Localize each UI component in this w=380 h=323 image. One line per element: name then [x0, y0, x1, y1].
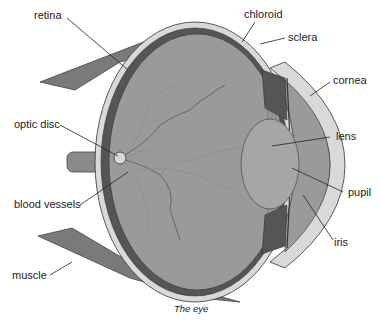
label-optic-disc: optic disc	[14, 119, 60, 130]
label-chloroid: chloroid	[244, 9, 283, 20]
label-blood-vessels: blood vessels	[14, 199, 81, 210]
optic-disc	[114, 152, 126, 164]
label-lens: lens	[336, 131, 356, 142]
label-pupil: pupil	[348, 187, 371, 198]
diagram-caption: The eye	[174, 303, 208, 314]
label-cornea: cornea	[333, 75, 367, 86]
label-muscle: muscle	[12, 270, 47, 281]
lens	[241, 119, 299, 209]
label-sclera: sclera	[288, 32, 317, 43]
eye-diagram	[0, 0, 380, 323]
label-iris: iris	[334, 237, 348, 248]
label-retina: retina	[34, 10, 62, 21]
